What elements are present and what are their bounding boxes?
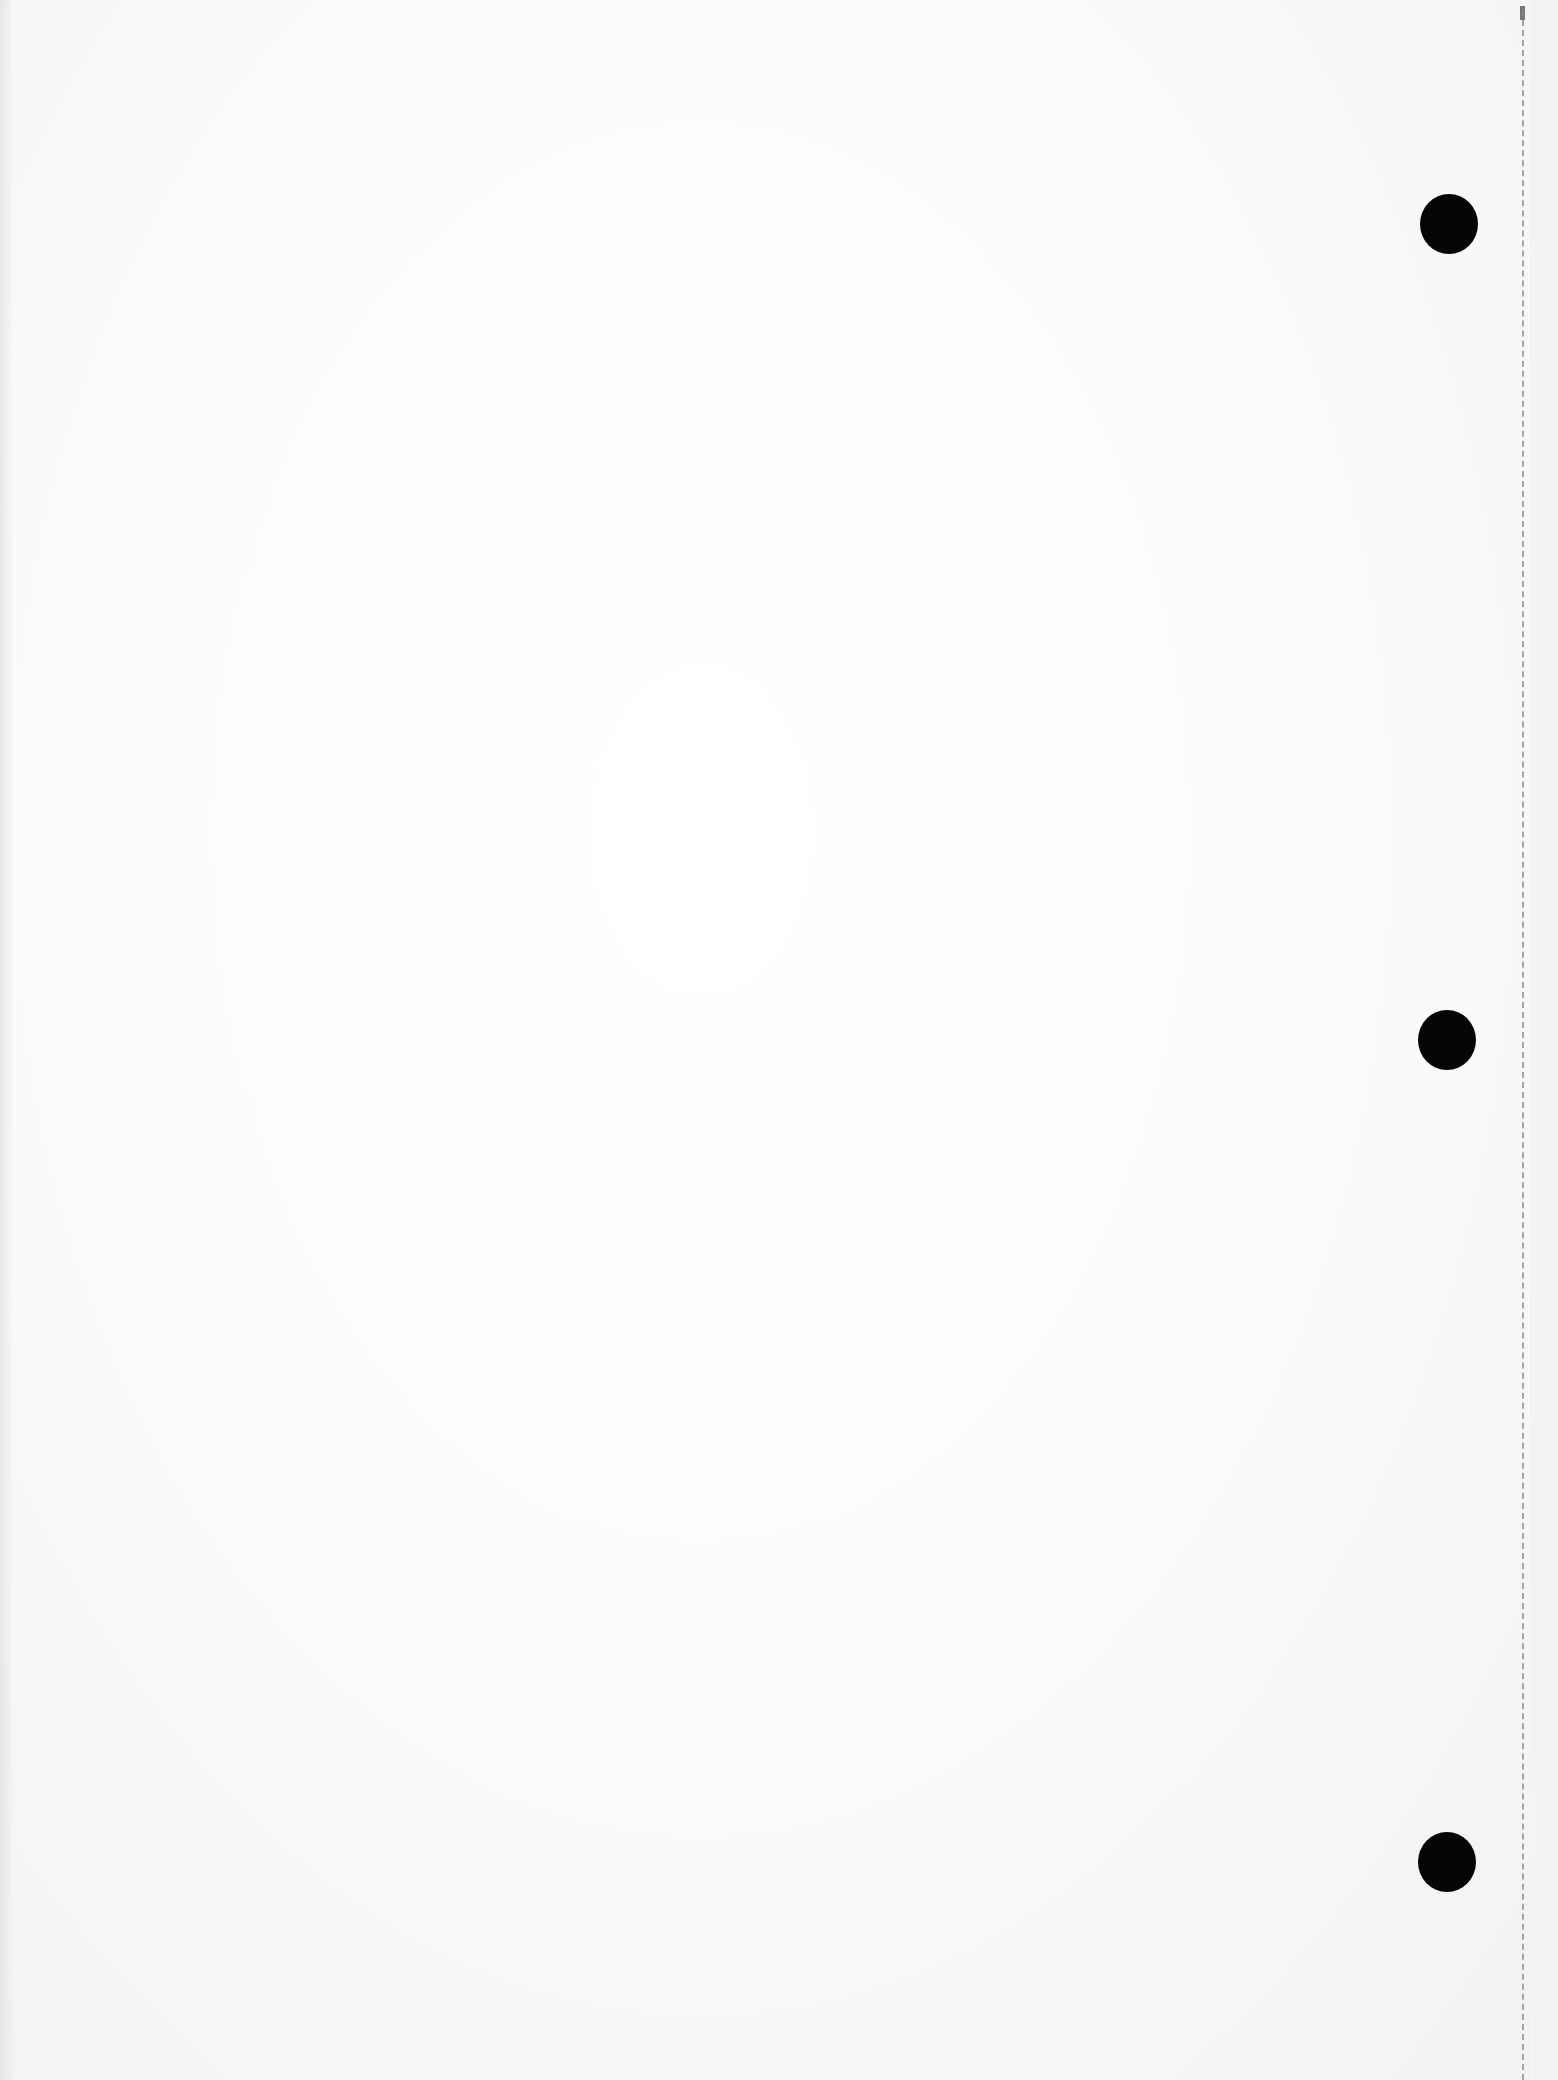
punch-hole-middle [1418,1010,1476,1070]
punch-hole-top [1420,194,1478,254]
scanned-page [0,0,1558,2080]
punch-hole-bottom [1418,1832,1476,1892]
page-edge-shadow [0,0,14,2080]
perforated-margin-strip [1530,0,1558,2080]
perforation-line [1522,10,1524,2080]
